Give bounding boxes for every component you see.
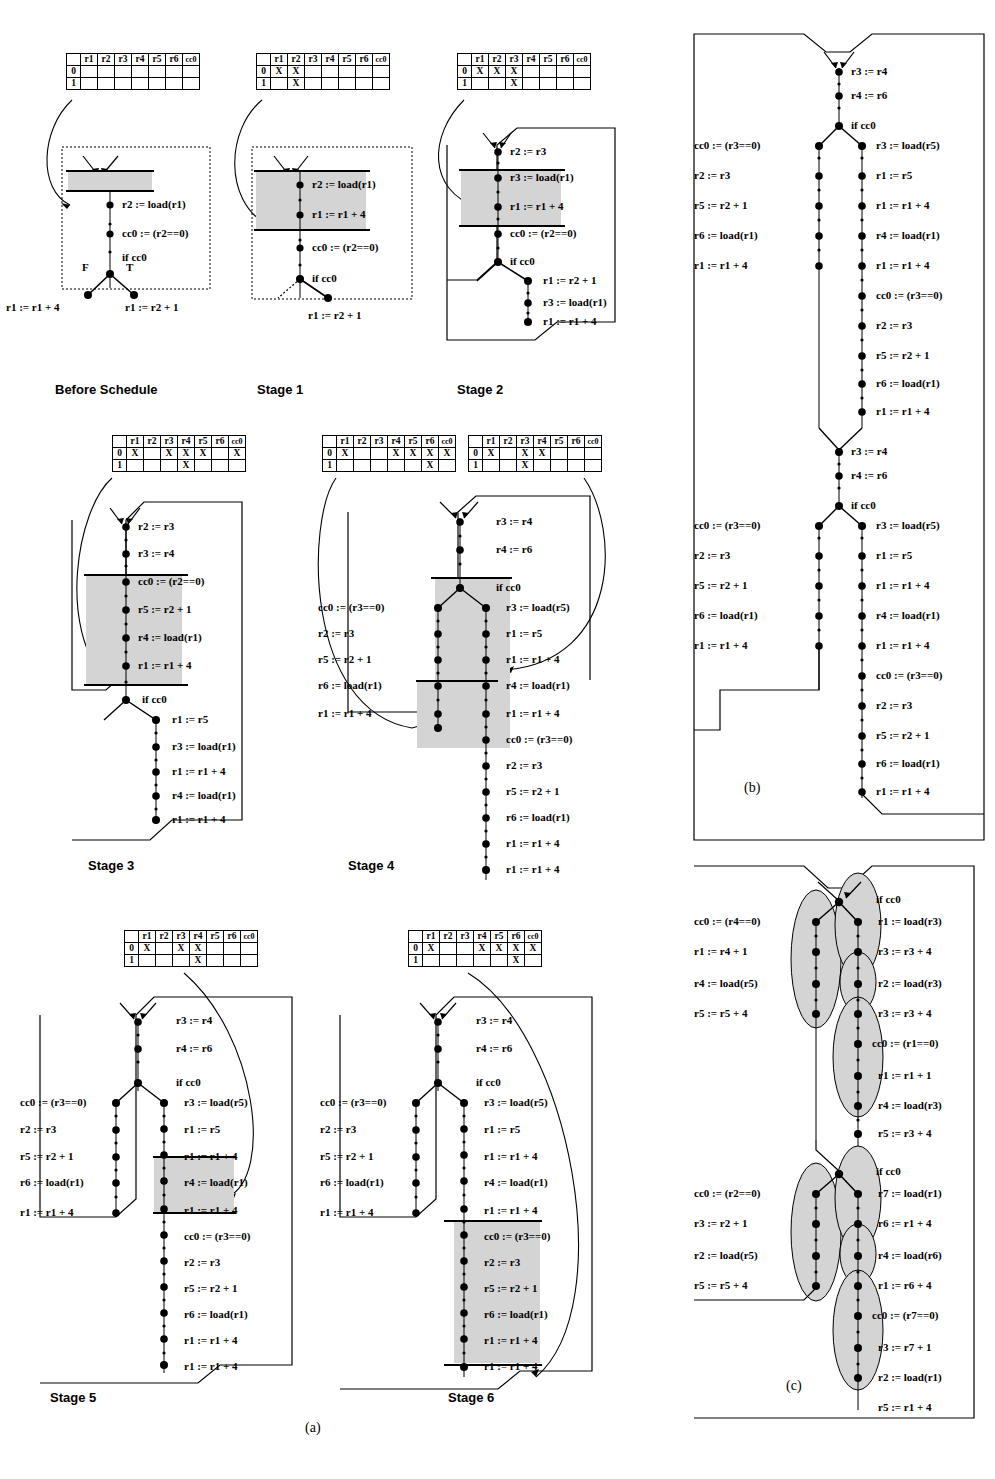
panelb-b0-left-3: r6 := load(r1) <box>694 230 758 241</box>
panelb-b1-left-0: cc0 := (r3==0) <box>694 520 760 531</box>
panelb-b1-right-1: r1 := r5 <box>876 550 912 561</box>
panelc-b1-right-7: r5 := r1 + 4 <box>878 1402 931 1413</box>
panelb-b1-left-4: r1 := r1 + 4 <box>694 640 747 651</box>
stage4-right-branch-10: r1 := r1 + 4 <box>506 864 559 875</box>
panelc-b1-right-5: r3 := r7 + 1 <box>878 1342 931 1353</box>
panelb-b1-left-2: r5 := r2 + 1 <box>694 580 747 591</box>
stage1-main-0: r2 := load(r1) <box>312 179 376 190</box>
panelb-b0-right-6: r2 := r3 <box>876 320 912 331</box>
panel-b: r3 := r4 r4 := r6 if cc0 cc0 := (r3==0) … <box>686 30 995 845</box>
stage4-left-branch-2: r5 := r2 + 1 <box>318 654 371 665</box>
stage6-right-branch-9: r1 := r1 + 4 <box>484 1335 537 1346</box>
stage2-right-branch-2: r1 := r1 + 4 <box>543 316 596 327</box>
stage6-left-branch-3: r6 := load(r1) <box>320 1177 384 1188</box>
panel-a: r1 r2 r3 r4 r5 r6 cc0 0 1 <box>0 0 680 1440</box>
stage5-right-branch-3: r4 := load(r1) <box>184 1177 248 1188</box>
stage4-right-branch-1: r1 := r5 <box>506 628 542 639</box>
stage3-main-1: r3 := r4 <box>138 548 174 559</box>
stage5-left-branch-4: r1 := r1 + 4 <box>20 1207 73 1218</box>
stage-label-6-text: Stage 6 <box>448 1390 494 1405</box>
stage2-main-2: r1 := r1 + 4 <box>510 201 563 212</box>
stage3-main-5: r1 := r1 + 4 <box>138 660 191 671</box>
stage5-right-branch-6: r2 := r3 <box>184 1257 220 1268</box>
stage3-main-2: cc0 := (r2==0) <box>138 576 204 587</box>
stage5-left-branch-3: r6 := load(r1) <box>20 1177 84 1188</box>
stage5-right-branch-4: r1 := r1 + 4 <box>184 1205 237 1216</box>
stage4-head-2: if cc0 <box>496 582 521 593</box>
panelb-b0-right-9: r1 := r1 + 4 <box>876 406 929 417</box>
panelb-b1-left-1: r2 := r3 <box>694 550 730 561</box>
stage2-main-3: cc0 := (r2==0) <box>510 228 576 239</box>
panelb-b0-right-7: r5 := r2 + 1 <box>876 350 929 361</box>
stage2-main-0: r2 := r3 <box>510 146 546 157</box>
stage6-left-branch-4: r1 := r1 + 4 <box>320 1207 373 1218</box>
before-main-1: cc0 := (r2==0) <box>122 228 188 239</box>
panelb-b0-head-1: r4 := r6 <box>851 90 887 101</box>
panelb-b0-left-2: r5 := r2 + 1 <box>694 200 747 211</box>
stage-label-2: Stage 2 <box>457 382 503 397</box>
stage4-right-branch-5: cc0 := (r3==0) <box>506 734 572 745</box>
panelb-b1-head-0: r3 := r4 <box>851 446 887 457</box>
panelc-b0-right-7: r5 := r3 + 4 <box>878 1128 931 1139</box>
before-right-branch-0: r1 := r2 + 1 <box>125 302 178 313</box>
stage-1-graph <box>230 0 435 400</box>
stage6-right-branch-5: cc0 := (r3==0) <box>484 1231 550 1242</box>
stage4-head-1: r4 := r6 <box>496 544 532 555</box>
panelb-b0-left-1: r2 := r3 <box>694 170 730 181</box>
panelb-b1-right-3: r4 := load(r1) <box>876 610 940 621</box>
panelc-b1-left-2: r2 := load(r5) <box>694 1250 758 1261</box>
stage6-head-0: r3 := r4 <box>476 1015 512 1026</box>
panelc-b0-right-5: r1 := r1 + 1 <box>878 1070 931 1081</box>
panelb-b0-head-2: if cc0 <box>851 120 876 131</box>
stage5-right-branch-8: r6 := load(r1) <box>184 1309 248 1320</box>
stage-label-1: Stage 1 <box>257 382 303 397</box>
stage4-left-branch-1: r2 := r3 <box>318 628 354 639</box>
stage5-right-branch-5: cc0 := (r3==0) <box>184 1231 250 1242</box>
stage1-main-3: if cc0 <box>312 273 337 284</box>
panelb-b1-head-1: r4 := r6 <box>851 470 887 481</box>
stage5-right-branch-7: r5 := r2 + 1 <box>184 1283 237 1294</box>
stage4-right-branch-2: r1 := r1 + 4 <box>506 654 559 665</box>
panelb-b1-right-5: cc0 := (r3==0) <box>876 670 942 681</box>
panelb-b0-right-4: r1 := r1 + 4 <box>876 260 929 271</box>
panelb-b1-right-7: r5 := r2 + 1 <box>876 730 929 741</box>
stage3-main-3: r5 := r2 + 1 <box>138 604 191 615</box>
panelc-b0-right-0: r1 := load(r3) <box>878 916 942 927</box>
panelb-b0-right-1: r1 := r5 <box>876 170 912 181</box>
stage5-head-0: r3 := r4 <box>176 1015 212 1026</box>
stage-label-before-schedule: Before Schedule <box>55 382 158 397</box>
panelc-b1-right-4: cc0 := (r7==0) <box>872 1310 938 1321</box>
stage3-main-0: r2 := r3 <box>138 521 174 532</box>
panelb-b0-right-5: cc0 := (r3==0) <box>876 290 942 301</box>
stage5-right-branch-9: r1 := r1 + 4 <box>184 1335 237 1346</box>
panelb-b0-left-4: r1 := r1 + 4 <box>694 260 747 271</box>
stage4-head-0: r3 := r4 <box>496 516 532 527</box>
stage-3: r1 r2 r3 r4 r5 r6 cc0 0 X X X X X 1 <box>60 430 320 880</box>
panelc-b0-right-6: r4 := load(r3) <box>878 1100 942 1111</box>
stage3-right-branch-4: r1 := r1 + 4 <box>172 814 225 825</box>
stage5-left-branch-2: r5 := r2 + 1 <box>20 1151 73 1162</box>
stage6-right-branch-4: r1 := r1 + 4 <box>484 1205 537 1216</box>
stage6-left-branch-2: r5 := r2 + 1 <box>320 1151 373 1162</box>
stage4-right-branch-6: r2 := r3 <box>506 760 542 771</box>
stage5-left-branch-0: cc0 := (r3==0) <box>20 1097 86 1108</box>
stage4-left-branch-4: r1 := r1 + 4 <box>318 708 371 719</box>
panelc-b0-left-3: r5 := r5 + 4 <box>694 1008 747 1019</box>
stage5-left-branch-1: r2 := r3 <box>20 1124 56 1135</box>
stage4-right-branch-9: r1 := r1 + 4 <box>506 838 559 849</box>
stage-2: r1 r2 r3 r4 r5 r6 cc0 0 X X X 1 X <box>435 0 665 410</box>
panelb-b1-right-2: r1 := r1 + 4 <box>876 580 929 591</box>
panelc-b0-right-2: r2 := load(r3) <box>878 978 942 989</box>
stage-1: r1 r2 r3 r4 r5 r6 cc0 0 X X 1 X <box>230 0 435 400</box>
panelc-b1-right-3: r1 := r6 + 4 <box>878 1280 931 1291</box>
stage6-left-branch-0: cc0 := (r3==0) <box>320 1097 386 1108</box>
panelb-b1-head-2: if cc0 <box>851 500 876 511</box>
panelc-b1-right-0: r7 := load(r1) <box>878 1188 942 1199</box>
stage-label-3: Stage 3 <box>88 858 134 873</box>
stage6-left-branch-1: r2 := r3 <box>320 1124 356 1135</box>
stage4-right-branch-7: r5 := r2 + 1 <box>506 786 559 797</box>
stage3-right-branch-2: r1 := r1 + 4 <box>172 766 225 777</box>
stage-before-schedule: r1 r2 r3 r4 r5 r6 cc0 0 1 <box>0 0 230 400</box>
stage1-main-2: cc0 := (r2==0) <box>312 242 378 253</box>
panelb-b1-right-9: r1 := r1 + 4 <box>876 786 929 797</box>
